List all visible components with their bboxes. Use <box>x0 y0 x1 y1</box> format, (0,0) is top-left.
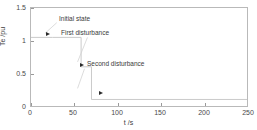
data-series-te <box>31 8 247 106</box>
x-tick-label-50: 50 <box>63 109 83 116</box>
annotation-initial-state: Initial state <box>59 16 90 23</box>
chart-figure: 1.5 1 0.5 0 0 50 100 150 200 250 Te /pu … <box>0 0 257 130</box>
y-tick-label-0.5: 0.5 <box>4 70 26 77</box>
x-tick-label-200: 200 <box>194 109 214 116</box>
y-axis-title: Te /pu <box>0 27 6 46</box>
y-tick-label-1: 1 <box>4 37 26 44</box>
x-tick-label-100: 100 <box>107 109 127 116</box>
marker-third-point <box>99 91 103 95</box>
marker-second-disturbance <box>80 63 84 67</box>
marker-first-disturbance <box>46 32 50 36</box>
x-tick-label-150: 150 <box>150 109 170 116</box>
y-tick-label-1.5: 1.5 <box>4 4 26 11</box>
annotation-first-disturbance: First disturbance <box>61 30 109 37</box>
x-tick-mark-250 <box>247 103 248 106</box>
annotation-second-disturbance: Second disturbance <box>87 61 144 68</box>
x-tick-label-250: 250 <box>238 109 257 116</box>
y-tick-mark-0 <box>31 106 34 107</box>
plot-area: Initial state First disturbance Second d… <box>30 7 248 107</box>
x-tick-label-0: 0 <box>20 109 40 116</box>
x-axis-title: t /s <box>0 119 257 126</box>
